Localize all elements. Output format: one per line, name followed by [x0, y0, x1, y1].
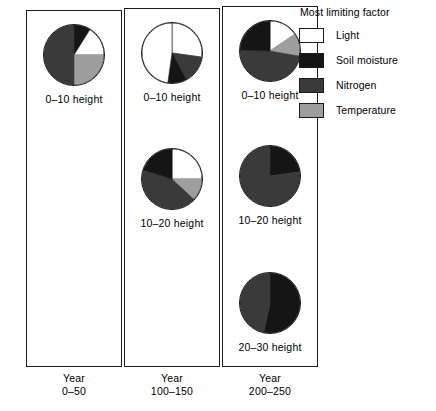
- pie-slice-nitrogen: [239, 272, 269, 332]
- pie-chart-c1-p1[interactable]: [43, 24, 105, 86]
- pie-svg-c2-p1: [141, 22, 203, 84]
- legend-label-light: Light: [336, 29, 359, 41]
- pie-svg-c2-p2: [141, 148, 203, 210]
- legend-swatch-nitrogen: [299, 78, 324, 93]
- year-range-1: 0–50: [26, 385, 122, 398]
- year-word-3: Year: [222, 372, 318, 385]
- legend: Most limiting factor Light Soil moisture…: [299, 6, 434, 127]
- legend-title: Most limiting factor: [300, 6, 434, 18]
- pie-svg-c3-p2: [239, 145, 301, 207]
- pie-cell-c3-p2: 10–20 height: [222, 145, 318, 226]
- pie-label-c1-p1: 0–10 height: [26, 93, 122, 105]
- column-footer-1: Year 0–50: [26, 372, 122, 398]
- pie-cell-c3-p3: 20–30 height: [222, 272, 318, 353]
- year-range-3: 200–250: [222, 385, 318, 398]
- pie-slice-light: [141, 22, 171, 82]
- year-word-1: Year: [26, 372, 122, 385]
- pie-label-c3-p2: 10–20 height: [222, 214, 318, 226]
- column-footer-2: Year 100–150: [124, 372, 220, 398]
- pie-slice-light: [172, 22, 202, 57]
- pie-slice-nitrogen: [239, 50, 299, 81]
- pie-chart-c2-p1[interactable]: [141, 22, 203, 84]
- pie-chart-c3-p2[interactable]: [239, 145, 301, 207]
- pie-chart-c2-p2[interactable]: [141, 148, 203, 210]
- legend-swatch-temperature: [299, 103, 324, 118]
- legend-item-temperature[interactable]: Temperature: [299, 102, 434, 118]
- legend-swatch-soil-moisture: [299, 53, 324, 68]
- pie-chart-c3-p3[interactable]: [239, 272, 301, 334]
- column-footer-3: Year 200–250: [222, 372, 318, 398]
- pie-cell-c2-p2: 10–20 height: [124, 148, 220, 229]
- figure-root: 0–10 height Year 0–50 0–10 height 10–20 …: [0, 0, 436, 411]
- pie-svg-c1-p1: [43, 24, 105, 86]
- year-range-2: 100–150: [124, 385, 220, 398]
- legend-label-temperature: Temperature: [336, 104, 396, 116]
- legend-label-soil-moisture: Soil moisture: [336, 54, 398, 66]
- pie-label-c2-p1: 0–10 height: [124, 91, 220, 103]
- legend-item-nitrogen[interactable]: Nitrogen: [299, 77, 434, 93]
- pie-chart-c3-p1[interactable]: [239, 20, 301, 82]
- pie-slice-nitrogen: [43, 24, 73, 85]
- legend-item-light[interactable]: Light: [299, 27, 434, 43]
- pie-svg-c3-p3: [239, 272, 301, 334]
- pie-label-c3-p3: 20–30 height: [222, 341, 318, 353]
- pie-svg-c3-p1: [239, 20, 301, 82]
- pie-cell-c2-p1: 0–10 height: [124, 22, 220, 103]
- pie-label-c2-p2: 10–20 height: [124, 217, 220, 229]
- pie-cell-c1-p1: 0–10 height: [26, 24, 122, 105]
- year-word-2: Year: [124, 372, 220, 385]
- legend-label-nitrogen: Nitrogen: [336, 79, 377, 91]
- legend-swatch-light: [299, 28, 324, 43]
- legend-item-soil-moisture[interactable]: Soil moisture: [299, 52, 434, 68]
